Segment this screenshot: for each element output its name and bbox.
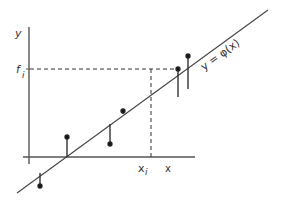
data-point: [176, 67, 180, 71]
data-point: [186, 54, 190, 58]
y-axis-label: y: [14, 27, 22, 40]
x-axis-label: x: [165, 163, 171, 174]
f-i-subscript: i: [22, 70, 25, 80]
least-squares-diagram: y f i x i x y = φ(x): [0, 0, 284, 204]
data-point: [121, 109, 125, 113]
x-i-subscript: i: [145, 167, 148, 177]
x-i-label: x: [138, 162, 145, 175]
data-point: [65, 135, 69, 139]
data-point: [38, 184, 42, 188]
data-point: [108, 142, 112, 146]
curve-label: y = φ(x): [198, 36, 242, 73]
